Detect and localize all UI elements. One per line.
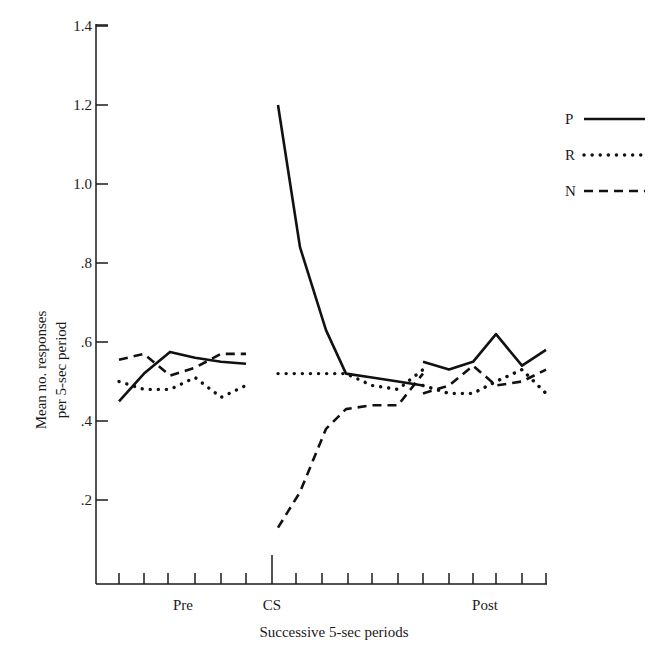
- y-axis-title: Mean no. responses per 5-sec period: [33, 310, 69, 429]
- y-axis-title-line-2: per 5-sec period: [53, 321, 69, 418]
- y-tick-label: .2: [81, 492, 92, 508]
- y-tick-label: .8: [81, 255, 92, 271]
- y-tick-label: 1.0: [73, 176, 92, 192]
- y-axis-title-line-1: Mean no. responses: [33, 310, 49, 429]
- series-p-pre-line: [119, 352, 246, 401]
- period-label-cs: CS: [263, 597, 281, 613]
- series-n-post-line: [423, 366, 546, 394]
- y-ticks: .2.4.6.81.01.21.4: [73, 18, 108, 508]
- series-p-post-line: [423, 334, 546, 370]
- series-n-cs-line: [278, 374, 423, 528]
- line-chart: .2.4.6.81.01.21.4 PreCSPost Successive 5…: [0, 0, 667, 659]
- y-tick-label: 1.2: [73, 97, 92, 113]
- period-label-pre: Pre: [173, 597, 193, 613]
- y-tick-label: .6: [81, 334, 93, 350]
- legend-label-r: R: [565, 147, 575, 163]
- series-p-cs-line: [278, 105, 423, 386]
- legend-label-n: N: [565, 183, 576, 199]
- series-n-pre-line: [119, 354, 246, 376]
- legend: PRN: [565, 111, 645, 199]
- period-labels: PreCSPost: [173, 597, 499, 613]
- x-axis-title: Successive 5-sec periods: [259, 624, 408, 640]
- period-label-post: Post: [472, 597, 499, 613]
- series-r-post-line: [423, 370, 546, 394]
- y-tick-label: 1.4: [73, 18, 92, 34]
- series-r-cs-line: [278, 370, 423, 390]
- y-tick-label: .4: [81, 413, 93, 429]
- series-lines: [119, 105, 546, 528]
- legend-label-p: P: [565, 111, 573, 127]
- x-ticks: [119, 573, 546, 584]
